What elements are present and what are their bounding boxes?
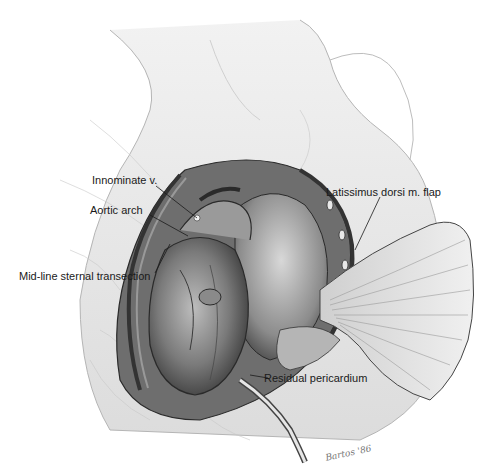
illustration-canvas: Innominate v. Aortic arch Mid-line stern… (0, 0, 488, 472)
label-residual-pericardium: Residual pericardium (264, 372, 367, 384)
label-innominate-vein: Innominate v. (92, 174, 157, 186)
label-aortic-arch: Aortic arch (90, 204, 143, 216)
label-latissimus-flap: Latissimus dorsi m. flap (326, 186, 441, 198)
label-sternal-transection: Mid-line sternal transection (19, 270, 150, 282)
surgical-illustration (0, 0, 488, 472)
